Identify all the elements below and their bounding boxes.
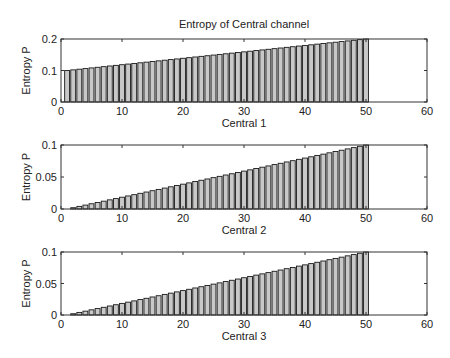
bar	[327, 260, 332, 315]
bar	[327, 153, 332, 209]
bar	[321, 44, 326, 103]
bar	[150, 191, 155, 209]
y-axis-label: Entropy P	[20, 259, 32, 307]
bar	[296, 46, 301, 102]
x-tick-label: 50	[360, 105, 372, 117]
bar	[248, 51, 253, 102]
bar	[357, 253, 362, 315]
x-tick-label: 10	[116, 212, 128, 224]
bar	[235, 53, 240, 102]
bar	[364, 252, 369, 315]
bar	[254, 168, 259, 209]
bar	[107, 200, 112, 209]
bar	[77, 69, 82, 102]
bar	[290, 161, 295, 209]
bar	[351, 148, 356, 209]
x-tick-label: 0	[58, 318, 64, 330]
bar	[309, 45, 314, 102]
bar	[260, 274, 265, 315]
bar	[144, 62, 149, 102]
bar	[211, 55, 216, 102]
bar	[162, 60, 167, 102]
bar	[290, 267, 295, 315]
y-tick-label: 0	[51, 203, 57, 215]
bar	[95, 309, 100, 315]
bar	[144, 192, 149, 209]
bar	[193, 288, 198, 315]
bar	[315, 44, 320, 102]
chart-title: Entropy of Central channel	[179, 18, 309, 30]
bar	[309, 264, 314, 315]
y-tick-label: 0.1	[42, 139, 57, 151]
bar	[248, 276, 253, 315]
bar	[199, 287, 204, 315]
bar	[254, 275, 259, 315]
bar	[83, 69, 88, 102]
subplot-central-3: 010203040506000.050.1Central 3Entropy P	[20, 246, 433, 342]
x-tick-label: 20	[177, 105, 189, 117]
bar	[321, 261, 326, 315]
bar	[229, 174, 234, 209]
bar	[107, 306, 112, 315]
bar	[309, 157, 314, 209]
y-tick-label: 0.2	[42, 33, 57, 45]
bar	[339, 257, 344, 315]
bar	[168, 60, 173, 102]
x-tick-label: 60	[421, 105, 433, 117]
bar	[333, 42, 338, 102]
bar	[162, 294, 167, 315]
bar	[296, 266, 301, 315]
bar	[260, 50, 265, 102]
bar	[260, 167, 265, 209]
entropy-figure: Entropy of Central channel 0102030405060…	[0, 0, 450, 358]
y-tick-label: 0	[51, 96, 57, 108]
bar	[333, 258, 338, 315]
x-tick-label: 10	[116, 318, 128, 330]
bar	[199, 180, 204, 209]
x-tick-label: 20	[177, 212, 189, 224]
bar	[229, 280, 234, 315]
bar	[150, 297, 155, 315]
bar	[65, 71, 70, 103]
y-tick-label: 0	[51, 309, 57, 321]
bar	[242, 52, 247, 102]
bar	[278, 163, 283, 209]
bar	[242, 171, 247, 209]
x-axis-label: Central 1	[222, 117, 267, 129]
bar	[193, 182, 198, 209]
bar	[156, 189, 161, 209]
bar	[138, 193, 143, 209]
bar	[113, 199, 118, 209]
bar	[205, 285, 210, 315]
y-tick-label: 0.1	[42, 65, 57, 77]
bar	[217, 176, 222, 209]
bar	[248, 170, 253, 209]
bar	[254, 51, 259, 102]
bar	[71, 70, 76, 102]
x-tick-label: 20	[177, 318, 189, 330]
bar	[333, 152, 338, 209]
bar	[351, 40, 356, 102]
bar	[223, 175, 228, 209]
bar	[126, 196, 131, 209]
y-axis-label: Entropy P	[20, 153, 32, 201]
bar	[150, 61, 155, 102]
subplot-central-1: 010203040506000.10.2Central 1Entropy P	[20, 33, 433, 129]
bar	[327, 43, 332, 102]
bar	[217, 54, 222, 102]
bar	[223, 54, 228, 102]
bar	[284, 162, 289, 209]
bar	[223, 282, 228, 315]
bar	[181, 291, 186, 315]
bar	[168, 187, 173, 209]
bar	[89, 204, 94, 209]
bar	[95, 67, 100, 102]
x-tick-label: 50	[360, 212, 372, 224]
bar	[205, 56, 210, 102]
bar	[217, 283, 222, 315]
bar	[144, 298, 149, 315]
bar	[132, 301, 137, 315]
bar	[89, 68, 94, 102]
x-tick-label: 30	[238, 318, 250, 330]
bar	[235, 279, 240, 315]
